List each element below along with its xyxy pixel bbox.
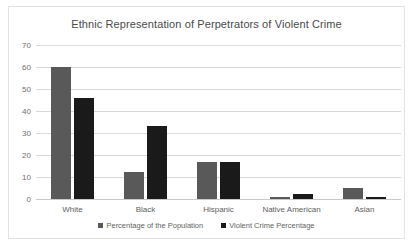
bar <box>293 194 313 199</box>
chart-legend: Percentage of the PopulationViolent Crim… <box>9 221 404 230</box>
bar-group: Asian <box>328 45 401 199</box>
x-axis-category-label: Black <box>136 205 156 214</box>
bar <box>366 197 386 199</box>
y-axis-tick-label: 0 <box>27 195 31 204</box>
bar <box>147 126 167 199</box>
y-axis-tick-label: 70 <box>22 41 31 50</box>
bar-group: Hispanic <box>182 45 255 199</box>
bar <box>74 98 94 199</box>
bar <box>51 67 71 199</box>
bar <box>124 172 144 200</box>
bar <box>343 188 363 199</box>
bar-groups: WhiteBlackHispanicNative AmericanAsian <box>36 45 401 199</box>
chart-title: Ethnic Representation of Perpetrators of… <box>9 18 404 30</box>
chart-container: Ethnic Representation of Perpetrators of… <box>8 6 405 239</box>
bar <box>270 197 290 199</box>
bar-group: Native American <box>255 45 328 199</box>
bar <box>197 162 217 199</box>
x-axis-category-label: White <box>62 205 82 214</box>
bar-group: White <box>36 45 109 199</box>
y-axis-tick-label: 30 <box>22 129 31 138</box>
legend-label: Violent Crime Percentage <box>229 221 314 230</box>
legend-item[interactable]: Percentage of the Population <box>98 221 203 230</box>
y-axis-tick-label: 50 <box>22 85 31 94</box>
y-axis-tick-label: 40 <box>22 107 31 116</box>
y-axis-tick-label: 60 <box>22 63 31 72</box>
legend-swatch-icon <box>98 223 103 228</box>
y-axis-tick-label: 10 <box>22 173 31 182</box>
legend-label: Percentage of the Population <box>106 221 203 230</box>
x-axis-category-label: Asian <box>354 205 374 214</box>
legend-item[interactable]: Violent Crime Percentage <box>221 221 314 230</box>
gridline <box>36 199 401 200</box>
bar-group: Black <box>109 45 182 199</box>
x-axis-category-label: Hispanic <box>203 205 234 214</box>
plot-area: 010203040506070 WhiteBlackHispanicNative… <box>36 45 401 199</box>
bar <box>220 162 240 199</box>
legend-swatch-icon <box>221 223 226 228</box>
x-axis-category-label: Native American <box>262 205 320 214</box>
y-axis-tick-label: 20 <box>22 151 31 160</box>
